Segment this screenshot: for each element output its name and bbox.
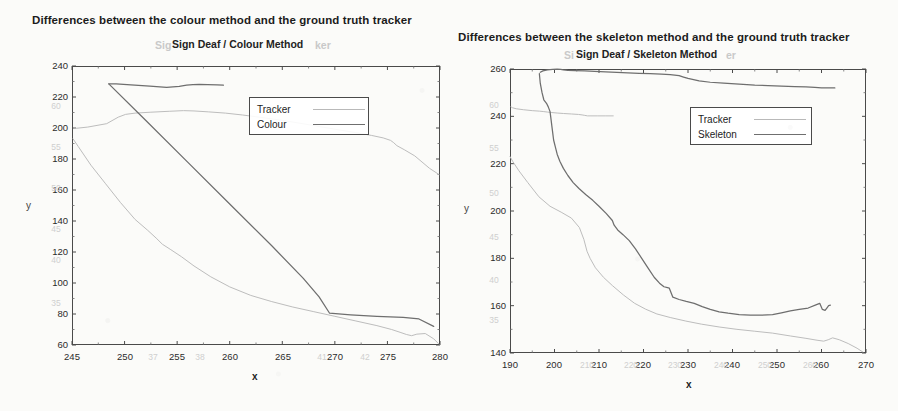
plot-skeleton: Si Sign Deaf / Skeleton Method er 260 24… bbox=[438, 0, 898, 411]
legend-swatch-tracker-colour bbox=[313, 109, 365, 110]
legend-swatch-tracker-skeleton bbox=[754, 119, 806, 120]
legend-row-method-colour: Colour bbox=[250, 119, 368, 130]
series-colour bbox=[109, 84, 224, 88]
figure-skeleton: Differences between the skeleton method … bbox=[438, 0, 898, 411]
legend-colour: Tracker Colour bbox=[249, 97, 369, 135]
legend-label-tracker-skeleton: Tracker bbox=[698, 114, 754, 125]
legend-label-skeleton: Skeleton bbox=[698, 129, 754, 140]
legend-swatch-colour bbox=[313, 124, 365, 125]
legend-row-method-skeleton: Skeleton bbox=[691, 129, 811, 140]
legend-label-colour: Colour bbox=[257, 119, 313, 130]
series-tracker bbox=[511, 107, 613, 116]
figure-colour: Differences between the colour method an… bbox=[0, 0, 460, 411]
series-tracker-descent bbox=[510, 157, 863, 352]
legend-skeleton: Tracker Skeleton bbox=[690, 107, 812, 145]
legend-row-tracker-colour: Tracker bbox=[250, 104, 368, 115]
plot-svg-colour bbox=[0, 0, 460, 411]
plot-colour: Sig Sign Deaf / Colour Method ker 240 22… bbox=[0, 0, 460, 411]
ticks-skeleton bbox=[510, 69, 866, 353]
scanned-page: Differences between the colour method an… bbox=[0, 0, 898, 411]
legend-swatch-skeleton bbox=[754, 134, 806, 135]
legend-row-tracker-skeleton: Tracker bbox=[691, 114, 811, 125]
plot-svg-skeleton bbox=[438, 0, 898, 411]
series-tracker-lower bbox=[73, 139, 439, 344]
legend-label-tracker-colour: Tracker bbox=[257, 104, 313, 115]
